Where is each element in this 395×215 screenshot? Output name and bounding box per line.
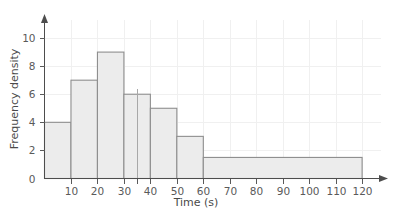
x-tick-label: 40 <box>144 185 157 197</box>
x-tick-label: 60 <box>197 185 210 197</box>
x-tick-label: 100 <box>299 185 319 197</box>
canvas-background <box>0 0 395 215</box>
histogram-svg: 102030405060708090100110120 0246810 Time… <box>0 0 395 215</box>
histogram-bar <box>71 80 97 178</box>
histogram-chart: 102030405060708090100110120 0246810 Time… <box>0 0 395 215</box>
x-tick-label: 80 <box>250 185 263 197</box>
x-tick-label: 120 <box>352 185 372 197</box>
y-tick-label: 0 <box>29 173 36 185</box>
x-tick-label: 90 <box>277 185 290 197</box>
x-axis-title: Time (s) <box>173 196 219 209</box>
x-tick-label: 20 <box>91 185 104 197</box>
x-tick-label: 70 <box>224 185 237 197</box>
histogram-bar <box>45 122 71 178</box>
y-axis-title: Frequency density <box>8 48 21 149</box>
histogram-bar <box>150 108 176 178</box>
x-tick-label: 30 <box>118 185 131 197</box>
histogram-bar <box>203 157 362 178</box>
y-tick-label: 2 <box>29 144 36 156</box>
x-tick-label: 10 <box>65 185 78 197</box>
histogram-bar <box>97 52 123 178</box>
x-tick-label: 110 <box>326 185 346 197</box>
histogram-bar <box>177 136 203 178</box>
x-tick-label: 50 <box>171 185 184 197</box>
y-tick-label: 4 <box>29 116 36 128</box>
y-tick-label: 6 <box>29 88 36 100</box>
plot-background <box>0 0 395 215</box>
y-tick-label: 8 <box>29 60 36 72</box>
y-tick-label: 10 <box>22 32 35 44</box>
